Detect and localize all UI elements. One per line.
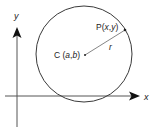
y-axis-label: y bbox=[13, 11, 19, 21]
point-label-close: ) bbox=[115, 22, 118, 32]
circle bbox=[36, 6, 132, 102]
radius-line bbox=[85, 30, 125, 55]
y-axis: y bbox=[13, 11, 22, 127]
circle-equation-diagram: y x C (a,b) P(x,y) r bbox=[0, 0, 156, 133]
center-label: C (a,b) bbox=[54, 50, 80, 60]
radius-label: r bbox=[109, 42, 113, 52]
x-axis: x bbox=[5, 92, 149, 102]
center-label-close: ) bbox=[77, 50, 80, 60]
point-p bbox=[124, 29, 127, 32]
point-label: P(x,y) bbox=[96, 22, 118, 32]
center-point bbox=[84, 54, 86, 56]
x-axis-label: x bbox=[143, 92, 149, 102]
